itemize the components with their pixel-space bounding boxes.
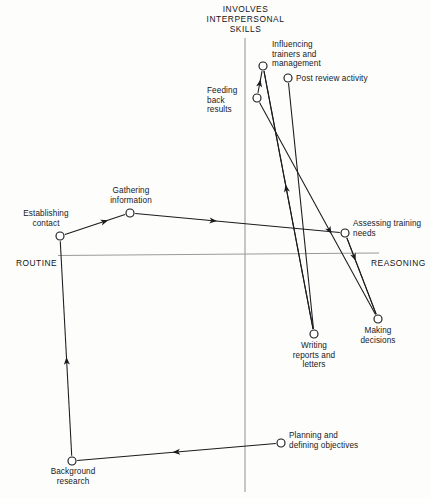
node-label-feeding_back_results: Feeding back results: [207, 86, 249, 115]
node-writing_reports[interactable]: [310, 330, 318, 338]
edge-writing-to-influencing: [264, 71, 313, 329]
node-feeding_back_results[interactable]: [253, 94, 261, 102]
edge-gathering-to-assessing: [135, 213, 340, 232]
node-layer: [56, 62, 382, 465]
edge-background-to-establishing: [60, 241, 71, 456]
node-label-establishing_contact: Establishing contact: [14, 209, 78, 228]
node-label-gathering_information: Gathering information: [98, 186, 164, 205]
arrowhead-establishing-to-gathering: [100, 217, 109, 225]
chart-diagram-canvas: INVOLVES INTERPERSONAL SKILLS ROUTINE RE…: [0, 0, 431, 499]
node-label-background_research: Background research: [42, 467, 104, 486]
edge-layer: [60, 71, 376, 460]
chart-title: INVOLVES INTERPERSONAL SKILLS: [188, 4, 303, 35]
arrowhead-writing-to-influencing: [283, 184, 290, 193]
node-planning_objectives[interactable]: [277, 439, 285, 447]
node-label-post_review_activity: Post review activity: [296, 74, 384, 84]
axis-label-reasoning: REASONING: [371, 258, 426, 268]
node-label-making_decisions: Making decisions: [347, 326, 409, 345]
edge-feeding-to-making: [259, 103, 375, 315]
node-label-influencing_trainers: Influencing trainers and management: [272, 40, 338, 69]
node-establishing_contact[interactable]: [56, 232, 64, 240]
node-label-assessing_training: Assessing training needs: [353, 219, 429, 238]
edge-making-to-assessing: [347, 238, 376, 314]
horizontal-axis-line: [58, 253, 379, 256]
node-influencing_trainers[interactable]: [259, 62, 267, 70]
node-label-writing_reports: Writing reports and letters: [279, 341, 349, 370]
arrowhead-feeding-to-influencing: [256, 79, 263, 88]
arrowhead-feeding-to-making: [325, 226, 334, 236]
node-background_research[interactable]: [68, 457, 76, 465]
node-post_review_activity[interactable]: [284, 74, 292, 82]
node-gathering_information[interactable]: [126, 209, 134, 217]
node-making_decisions[interactable]: [374, 315, 382, 323]
axis-label-routine: ROUTINE: [16, 258, 57, 268]
node-label-planning_objectives: Planning and defining objectives: [289, 431, 373, 450]
edge-postreview-to-writing: [289, 83, 314, 329]
node-assessing_training[interactable]: [341, 229, 349, 237]
